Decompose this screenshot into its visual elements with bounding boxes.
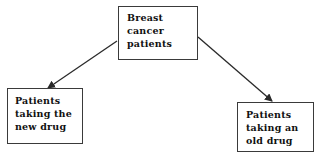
arrow-root-to-new-drug — [48, 41, 117, 88]
arrow-root-to-old-drug — [198, 37, 272, 101]
node-label-line: Patients — [15, 94, 82, 107]
diagram-canvas: Breast cancer patients Patients taking t… — [0, 0, 320, 158]
node-patients-new-drug: Patients taking the new drug — [7, 88, 83, 144]
node-label-line: old drug — [246, 134, 313, 147]
node-label-line: taking an — [246, 121, 313, 134]
node-label-line: taking the — [15, 107, 82, 120]
node-breast-cancer-patients: Breast cancer patients — [118, 6, 198, 60]
node-label-line: cancer — [127, 24, 197, 37]
node-label-line: new drug — [15, 120, 82, 133]
node-label-line: Breast — [127, 11, 197, 24]
node-label-line: Patients — [246, 108, 313, 121]
node-patients-old-drug: Patients taking an old drug — [237, 102, 314, 152]
node-label-line: patients — [127, 37, 197, 50]
